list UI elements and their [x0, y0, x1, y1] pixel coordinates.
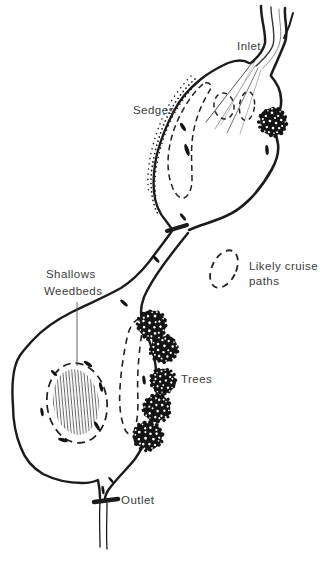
shoreline [12, 60, 281, 549]
sedges-stipple [148, 76, 198, 214]
label-sedges: Sedges [133, 103, 175, 118]
cruise-oval-a [212, 92, 235, 121]
label-shallows: Shallows [46, 267, 96, 282]
label-trees: Trees [181, 372, 212, 387]
lake-sketch-map: Inlet Sedges Likely cruise paths Shallow… [0, 0, 329, 587]
weedbed-hatch [48, 366, 104, 438]
label-outlet: Outlet [121, 493, 154, 508]
cruise-oval-labelled [204, 246, 243, 292]
upper-cruise-band [168, 83, 211, 198]
lower-cruise-loop [120, 318, 143, 434]
cruise-oval-b [238, 91, 256, 121]
label-cruise-line2: paths [249, 274, 279, 289]
label-cruise-line1: Likely cruise [249, 259, 318, 274]
lower-pool-east-shore [105, 233, 188, 499]
outlet-bar [94, 499, 118, 502]
tree-icon [257, 107, 288, 138]
label-inlet: Inlet [237, 39, 261, 54]
label-weedbeds: Weedbeds [44, 284, 102, 299]
